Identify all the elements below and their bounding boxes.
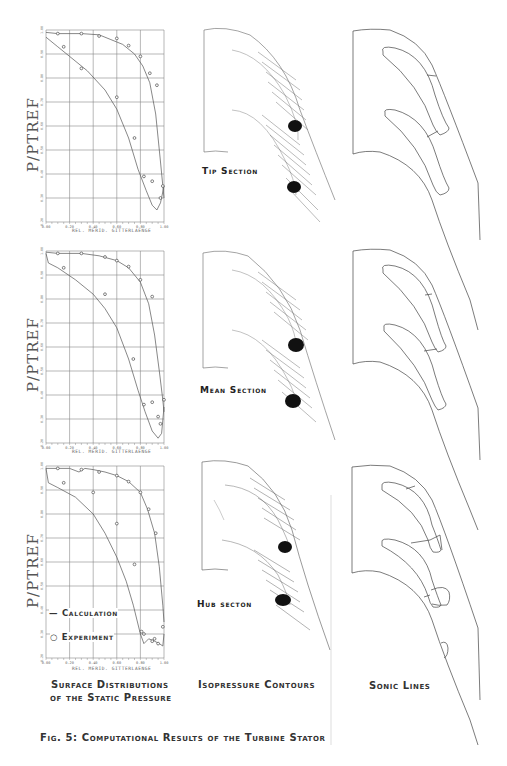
caption-isopressure: Isopressure Contours [198,679,315,690]
figure-caption: Fig. 5: Computational Results of the Tur… [40,732,326,743]
caption-sonic: Sonic Lines [369,680,431,691]
caption-surface-line1: Surface Distributions [51,679,169,690]
sonic-lines [0,0,507,766]
caption-surface-line2: of the Static Pressure [50,692,172,703]
